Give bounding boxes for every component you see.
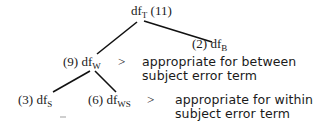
annotation-line-1: appropriate for between <box>142 55 296 69</box>
node-df-between: (2) dfB <box>192 37 227 51</box>
node-suffix: (11) <box>147 3 171 18</box>
annotation-line-2: subject error term <box>142 69 296 83</box>
node-subscript: B <box>221 43 227 53</box>
node-subscript: S <box>47 99 52 109</box>
edge-W-to-S <box>53 71 90 92</box>
edge-T-to-W <box>97 22 137 54</box>
node-prefix: df <box>131 3 142 18</box>
arrow-gt-within: > <box>118 55 125 69</box>
annotation-within-subject: appropriate for within subject error ter… <box>175 93 313 121</box>
node-prefix: (6) df <box>88 92 117 107</box>
node-df-subjects: (3) dfS <box>18 93 52 107</box>
node-df-total: dfT (11) <box>131 4 172 18</box>
node-df-within: (9) dfW <box>63 55 101 69</box>
edge-W-to-WS <box>95 71 116 92</box>
node-subscript: WS <box>117 99 131 109</box>
node-prefix: (3) df <box>18 92 47 107</box>
annotation-line-2: subject error term <box>175 107 313 121</box>
annotation-line-1: appropriate for within <box>175 93 313 107</box>
node-df-within-subjects: (6) dfWS <box>88 93 131 107</box>
node-prefix: (2) df <box>192 36 221 51</box>
scan-artifact <box>60 116 66 118</box>
arrow-gt-within-subjects: > <box>147 93 154 107</box>
annotation-between-subject: appropriate for between subject error te… <box>142 55 296 83</box>
node-subscript: W <box>92 61 101 71</box>
node-prefix: (9) df <box>63 54 92 69</box>
df-partition-diagram: dfT (11) (2) dfB (9) dfW > appropriate f… <box>0 0 322 128</box>
